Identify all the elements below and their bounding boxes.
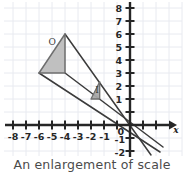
x-tick-label: -6: [34, 131, 45, 142]
coordinate-plot: O I: [0, 0, 184, 172]
x-tick-label: -1: [99, 131, 110, 142]
y-tick-label: 2: [115, 81, 122, 92]
x-tick-label: -5: [47, 131, 58, 142]
image-triangle-label: I: [95, 85, 99, 95]
y-tick-label: 3: [115, 68, 122, 79]
figure-caption: An enlargement of scale: [0, 157, 184, 172]
y-tick-label: 4: [115, 55, 122, 66]
y-tick-label: 5: [115, 42, 122, 53]
y-tick-label: 8: [115, 3, 122, 14]
enlargement-diagram: O I: [0, 0, 184, 172]
x-tick-label: -8: [8, 131, 19, 142]
y-tick-label: 6: [115, 29, 122, 40]
object-triangle-label: O: [49, 37, 56, 47]
y-tick-label: 7: [115, 16, 122, 27]
y-tick-label: 1: [115, 94, 122, 105]
x-axis-label: x: [172, 125, 179, 135]
x-tick-labels: -8 -7 -6 -5 -4 -3 -2 -1: [8, 131, 110, 142]
origin-label: 0: [117, 126, 124, 137]
x-tick-label: -3: [73, 131, 84, 142]
x-tick-label: -7: [21, 131, 32, 142]
x-tick-label: -2: [86, 131, 97, 142]
x-tick-label: -4: [60, 131, 71, 142]
y-tick-label: -2: [114, 147, 125, 158]
